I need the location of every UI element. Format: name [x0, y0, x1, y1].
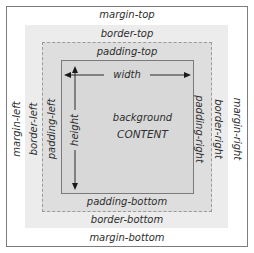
background-label: background — [90, 112, 195, 124]
border-left-label: border-left — [28, 79, 40, 179]
margin-right-label: margin-right — [231, 79, 243, 179]
margin-left-label: margin-left — [11, 79, 23, 179]
border-right-label: border-right — [212, 79, 224, 179]
width-label: width — [104, 69, 150, 81]
padding-bottom-label: padding-bottom — [0, 196, 254, 208]
padding-top-label: padding-top — [0, 46, 254, 58]
content-label: CONTENT — [90, 128, 195, 140]
border-top-label: border-top — [0, 28, 254, 40]
padding-left-label: padding-left — [46, 79, 58, 179]
margin-bottom-label: margin-bottom — [0, 232, 254, 244]
height-label: height — [69, 112, 81, 148]
padding-right-label: padding-right — [193, 79, 205, 179]
margin-top-label: margin-top — [0, 9, 254, 21]
border-bottom-label: border-bottom — [0, 214, 254, 226]
